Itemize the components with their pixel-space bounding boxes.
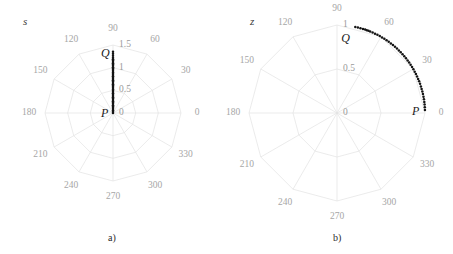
panel-a-angle-label-120: 120 bbox=[64, 36, 78, 46]
panel-a-radial-label-1: 0.5 bbox=[119, 86, 131, 96]
panel-b-point-Q-label: Q bbox=[341, 32, 350, 44]
panel-a-radial-label-2: 1 bbox=[119, 63, 124, 73]
panel-a-caption: a) bbox=[108, 233, 116, 243]
panel-a-angle-label-60: 60 bbox=[150, 36, 160, 46]
panel-b-angle-label-300: 300 bbox=[382, 198, 396, 208]
panel-b-angle-label-270: 270 bbox=[330, 212, 344, 222]
panel-b-angle-label-120: 120 bbox=[278, 18, 292, 28]
panel-b-caption: b) bbox=[333, 233, 341, 243]
panel-a-angle-label-180: 180 bbox=[22, 108, 36, 118]
panel-a-angle-label-0: 0 bbox=[195, 108, 200, 118]
panel-b-radial-label-0: 0 bbox=[343, 108, 348, 118]
panel-a-point-Q-label: Q bbox=[101, 47, 110, 59]
panel-b-angle-label-90: 90 bbox=[332, 4, 342, 14]
panel-b-angle-label-180: 180 bbox=[226, 108, 240, 118]
polar-figure: s P Q a) 0306090120150180210240270300330… bbox=[0, 0, 453, 254]
panel-b-radial-label-1: 0.5 bbox=[343, 64, 355, 74]
panel-a-angle-label-150: 150 bbox=[33, 66, 47, 76]
panel-b-angle-label-150: 150 bbox=[240, 56, 254, 66]
panel-a-angle-label-210: 210 bbox=[33, 150, 47, 160]
panel-b-angle-label-30: 30 bbox=[422, 56, 432, 66]
panel-b-angle-label-60: 60 bbox=[384, 18, 394, 28]
panel-b: z P Q b) 0306090120150180210240270300330… bbox=[227, 0, 453, 254]
panel-b-radial-label-2: 1 bbox=[343, 20, 348, 30]
panel-a-angle-label-90: 90 bbox=[108, 24, 118, 34]
panel-b-point-P-label: P bbox=[412, 105, 419, 117]
panel-b-angle-label-210: 210 bbox=[240, 160, 254, 170]
panel-a-variable-label: s bbox=[23, 16, 27, 27]
panel-a-angle-label-30: 30 bbox=[181, 66, 191, 76]
panel-b-angle-label-240: 240 bbox=[278, 198, 292, 208]
panel-b-angle-label-330: 330 bbox=[420, 160, 434, 170]
panel-a-radial-label-0: 0 bbox=[119, 108, 124, 118]
panel-a-point-P-label: P bbox=[101, 107, 108, 119]
panel-a: s P Q a) 0306090120150180210240270300330… bbox=[0, 0, 227, 254]
panel-b-angle-label-0: 0 bbox=[439, 108, 444, 118]
panel-a-angle-label-330: 330 bbox=[179, 150, 193, 160]
panel-a-radial-label-3: 1.5 bbox=[119, 40, 131, 50]
panel-a-angle-label-270: 270 bbox=[106, 192, 120, 202]
panel-a-plot bbox=[0, 0, 227, 254]
panel-a-angle-label-240: 240 bbox=[64, 181, 78, 191]
panel-a-angle-label-300: 300 bbox=[148, 181, 162, 191]
panel-b-variable-label: z bbox=[250, 16, 254, 27]
